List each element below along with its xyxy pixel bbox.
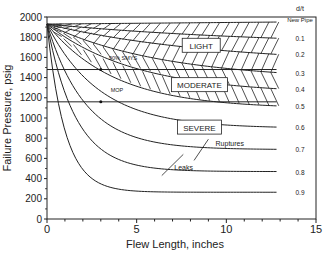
- y-tick-label: 2000: [20, 12, 43, 23]
- ref-label: MOP: [111, 87, 124, 93]
- y-tick-label: 800: [25, 133, 42, 144]
- y-tick-label: 1800: [20, 32, 43, 43]
- curve-0.4: [47, 24, 277, 89]
- dt-header: d/t: [296, 5, 304, 12]
- x-tick-label: 15: [310, 223, 322, 235]
- hatched-regions: [54, 22, 279, 106]
- ref-label: 90% SMYS: [109, 55, 137, 61]
- region-label: LIGHT: [189, 42, 213, 51]
- y-tick-label: 1000: [20, 113, 43, 124]
- series-label: 0.8: [295, 169, 304, 176]
- region-labels: LIGHTMODERATESEVERERupturesLeaks: [162, 38, 245, 175]
- y-tick-label: 1600: [20, 52, 43, 63]
- reference-lines: 90% SMYSMOP: [47, 55, 277, 104]
- curve-0.5: [47, 24, 277, 106]
- chart-svg: New Pipe0.10.20.30.40.50.60.70.80.9 90% …: [0, 0, 328, 254]
- series-label: 0.1: [295, 35, 304, 42]
- series-label: 0.5: [295, 103, 304, 110]
- annotation-leaks: Leaks: [174, 164, 193, 171]
- series-label: 0.7: [295, 146, 304, 153]
- region-label: MODERATE: [177, 81, 222, 90]
- series-label: 0.6: [295, 124, 304, 131]
- y-tick-label: 400: [25, 173, 42, 184]
- x-axis-label: Flew Length, inches: [126, 238, 224, 250]
- x-tick-label: 10: [220, 223, 232, 235]
- x-tick-label: 5: [134, 223, 140, 235]
- annotation-ruptures: Ruptures: [216, 140, 245, 148]
- series-label: 0.9: [295, 189, 304, 196]
- y-tick-label: 200: [25, 193, 42, 204]
- y-tick-label: 0: [36, 214, 42, 225]
- curve-new-pipe: [47, 22, 277, 24]
- y-axis-label: Failure Pressure, psig: [1, 65, 13, 172]
- y-tick-label: 1200: [20, 92, 43, 103]
- series-label: 0.3: [295, 70, 304, 77]
- plot-frame: [47, 17, 316, 219]
- curve-0.9: [47, 24, 277, 192]
- series-label: 0.2: [295, 51, 304, 58]
- curve-0.6: [47, 24, 277, 127]
- series-label: 0.4: [295, 86, 304, 93]
- y-tick-label: 1400: [20, 72, 43, 83]
- y-tick-label: 600: [25, 153, 42, 164]
- x-tick-label: 0: [44, 223, 50, 235]
- failure-pressure-chart: New Pipe0.10.20.30.40.50.60.70.80.9 90% …: [0, 0, 328, 254]
- series-label: New Pipe: [287, 17, 313, 23]
- region-label: SEVERE: [183, 124, 215, 133]
